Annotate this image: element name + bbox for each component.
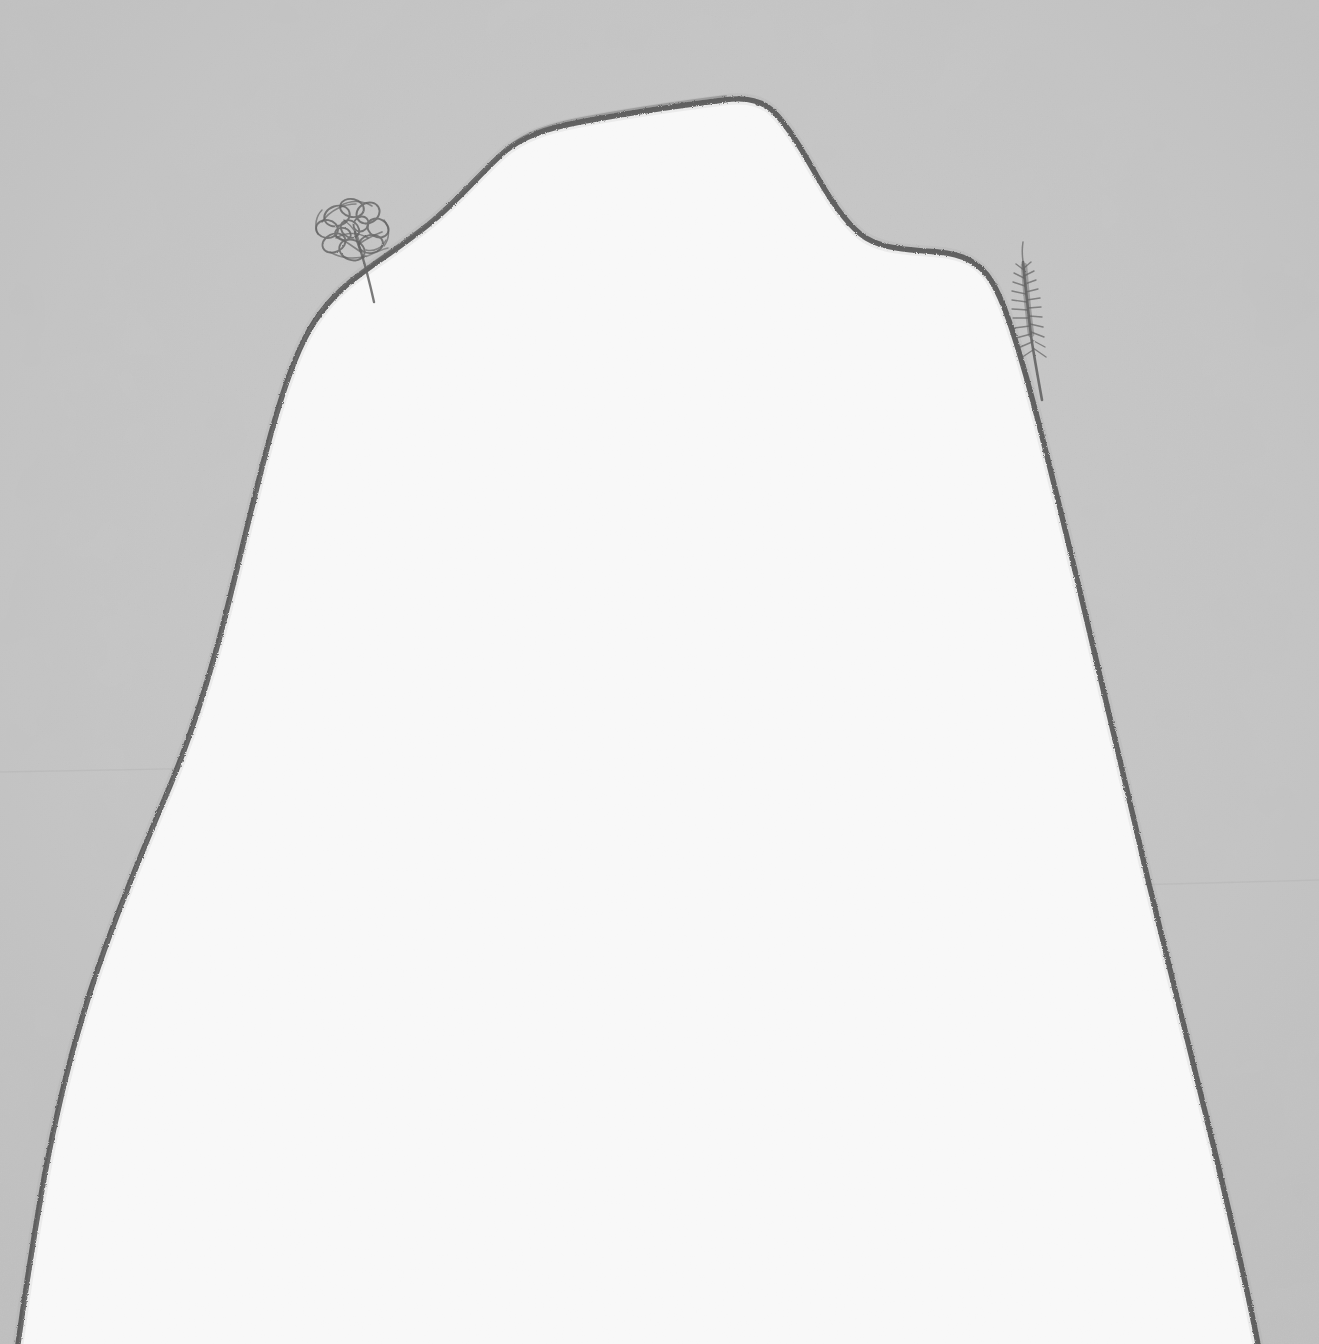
grass-tip [1022, 242, 1023, 262]
drawing-svg [0, 0, 1319, 1344]
artwork-canvas: Mountain Silhouette with Two Plants grap… [0, 0, 1319, 1344]
